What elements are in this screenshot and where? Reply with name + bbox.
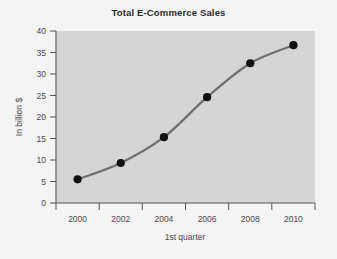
- x-axis-ticks: [56, 203, 315, 210]
- x-axis-title: 1st quarter: [165, 232, 206, 242]
- y-axis-ticks: [50, 31, 56, 203]
- data-point-2008: [246, 59, 254, 67]
- y-tick-label-0: 0: [41, 198, 46, 208]
- y-tick-label-10: 10: [37, 155, 47, 165]
- x-tick-label-2008: 2008: [241, 214, 260, 224]
- y-tick-label-20: 20: [37, 112, 47, 122]
- y-tick-label-30: 30: [37, 69, 47, 79]
- line-chart-plot: 40 35 30 25 20 15 10 5 0 In billion $ 20…: [0, 0, 337, 259]
- data-point-2000: [73, 175, 81, 183]
- y-tick-label-25: 25: [37, 91, 47, 101]
- x-tick-label-2004: 2004: [154, 214, 173, 224]
- y-axis-title: In billion $: [14, 98, 24, 137]
- y-tick-label-15: 15: [37, 134, 47, 144]
- chart-container: Total E-Commerce Sales 40 35 30 25 20 15…: [0, 0, 337, 259]
- data-point-2002: [117, 159, 125, 167]
- y-tick-label-40: 40: [37, 26, 47, 36]
- x-tick-label-2000: 2000: [68, 214, 87, 224]
- y-tick-label-5: 5: [41, 177, 46, 187]
- y-tick-label-35: 35: [37, 48, 47, 58]
- data-point-2006: [203, 93, 211, 101]
- data-point-2004: [160, 133, 168, 141]
- x-tick-label-2006: 2006: [198, 214, 217, 224]
- x-tick-label-2010: 2010: [284, 214, 303, 224]
- x-tick-label-2002: 2002: [111, 214, 130, 224]
- data-point-2010: [289, 41, 297, 49]
